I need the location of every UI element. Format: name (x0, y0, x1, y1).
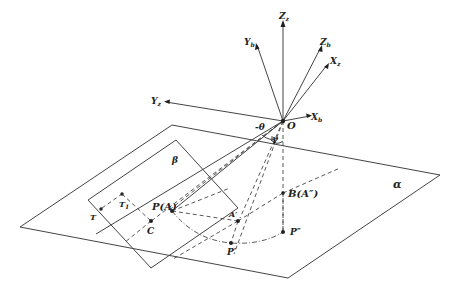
axis-z-b (283, 47, 321, 121)
point-b (281, 191, 285, 195)
point-a1 (236, 219, 240, 223)
label-gamma: γ (272, 134, 279, 144)
pa-up-line (172, 188, 230, 211)
label-x-z: Xz (329, 56, 341, 67)
label-t: T (90, 212, 97, 222)
point-t1 (120, 192, 123, 195)
diagram-canvas: Zz Yb Zb Xz Yz Xb O -θ γ β α P(A) B(A″) … (0, 0, 460, 293)
point-p2 (281, 230, 285, 234)
coordinate-axes (164, 20, 329, 121)
label-t1: T1 (119, 199, 129, 210)
label-p2: P″ (289, 227, 301, 237)
label-pa: P(A) (151, 201, 177, 212)
label-alpha: α (393, 178, 402, 191)
label-y-b: Yb (244, 37, 255, 48)
label-z-z: Zz (278, 11, 290, 22)
label-y-z: Yz (151, 96, 161, 107)
geometry-figure: Zz Yb Zb Xz Yz Xb O -θ γ β α P(A) B(A″) … (0, 0, 460, 293)
label-c: C (147, 226, 155, 236)
axis-y-z (166, 102, 283, 121)
label-x-b: Xb (310, 112, 322, 123)
ray-o-extended (96, 121, 283, 234)
label-o: O (287, 120, 296, 131)
label-b: B(A″) (287, 188, 318, 199)
axis-x-z (283, 65, 327, 121)
a1-p1-line (231, 221, 238, 243)
label-theta: -θ (255, 122, 265, 132)
point-o (281, 119, 285, 123)
label-p1: P′ (226, 247, 237, 257)
point-p1 (229, 241, 233, 245)
axis-y-b (257, 45, 283, 121)
label-z-b: Zb (319, 37, 331, 48)
point-t (99, 207, 102, 210)
label-a1: A′ (228, 209, 238, 219)
label-beta: β (171, 155, 178, 165)
point-c (149, 219, 153, 223)
